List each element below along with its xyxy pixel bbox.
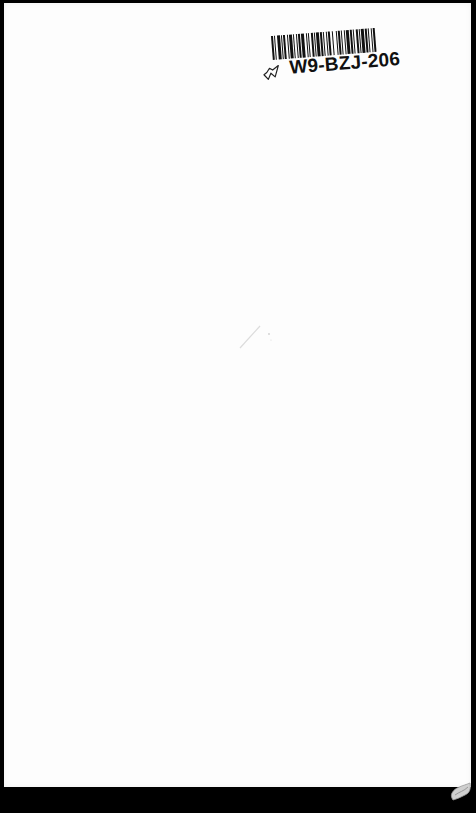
scanned-page-frame: W9-BZJ-206	[0, 0, 476, 813]
blank-page: W9-BZJ-206	[4, 3, 471, 787]
barcode-label: W9-BZJ-206	[259, 23, 443, 89]
page-curl-icon	[449, 781, 473, 803]
handwritten-tick-icon	[261, 63, 282, 83]
faint-pencil-mark-icon	[236, 318, 276, 352]
barcode-space	[375, 28, 380, 52]
